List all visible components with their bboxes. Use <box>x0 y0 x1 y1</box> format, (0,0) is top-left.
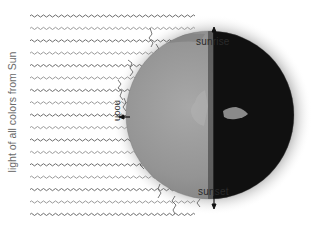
sunset-label: sunset <box>198 186 229 197</box>
day-night-diagram: light of all colors from Sun sunrise noo… <box>0 0 318 231</box>
incoming-light-label: light of all colors from Sun <box>6 42 18 182</box>
noon-label: noon <box>113 100 124 121</box>
diagram-canvas <box>0 0 318 231</box>
sunrise-label: sunrise <box>196 36 230 47</box>
